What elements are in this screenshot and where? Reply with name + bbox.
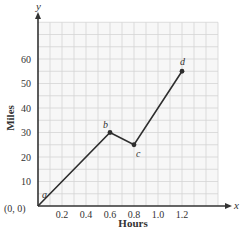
y-tick-label: 20	[21, 152, 31, 163]
point-label-c: c	[136, 148, 141, 159]
origin-label: (0, 0)	[4, 203, 26, 215]
x-axis-arrow-icon	[225, 203, 232, 209]
x-tick-label: 1.2	[176, 209, 189, 220]
x-tick-label: 0.2	[56, 209, 69, 220]
x-axis-title: Hours	[118, 217, 148, 229]
y-tick-label: 40	[21, 103, 31, 114]
data-point-c	[132, 142, 137, 147]
x-tick-label: 0.4	[80, 209, 93, 220]
x-tick-label: 0.6	[104, 209, 117, 220]
data-point-d	[180, 69, 185, 74]
x-axis-variable: x	[233, 199, 239, 211]
y-tick-label: 10	[21, 176, 31, 187]
y-axis-arrow-icon	[35, 12, 41, 19]
chart-canvas: 0.20.40.60.81.01.2102030405060 abcd Hour…	[0, 0, 246, 235]
y-axis-title: Miles	[4, 104, 16, 130]
point-label-b: b	[103, 119, 108, 130]
data-point-b	[108, 130, 113, 135]
y-axis-variable: y	[35, 0, 41, 12]
y-tick-label: 50	[21, 78, 31, 89]
y-tick-label: 30	[21, 127, 31, 138]
y-tick-label: 60	[21, 54, 31, 65]
x-tick-label: 1.0	[152, 209, 165, 220]
point-label-a: a	[42, 189, 47, 200]
distance-time-chart: 0.20.40.60.81.01.2102030405060 abcd Hour…	[0, 0, 246, 235]
